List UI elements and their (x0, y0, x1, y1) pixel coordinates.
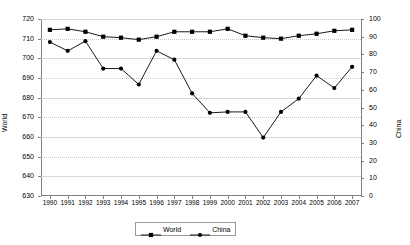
legend-label: China (212, 226, 230, 233)
x-axis-tick-mark (317, 196, 318, 199)
chart-legend: WorldChina (135, 222, 236, 236)
x-axis-tick-mark (281, 196, 282, 199)
x-axis-tick-mark (174, 196, 175, 199)
x-axis-tick-mark (299, 196, 300, 199)
x-axis-tick-mark (245, 196, 246, 199)
data-point-world (332, 29, 336, 33)
data-point-china (119, 66, 123, 70)
x-axis-tick-mark (263, 196, 264, 199)
data-point-world (297, 34, 301, 38)
data-point-world (83, 30, 87, 34)
y-axis-right-tick-mark (361, 161, 364, 162)
data-point-world (350, 28, 354, 32)
data-point-china (314, 74, 318, 78)
y-axis-right-tick-mark (361, 72, 364, 73)
data-point-world (48, 28, 52, 32)
data-point-world (154, 35, 158, 39)
data-point-world (226, 27, 230, 31)
x-axis-tick-mark (157, 196, 158, 199)
y-axis-right-tick-label: 0 (369, 192, 395, 199)
y-axis-title-left: World (1, 72, 8, 132)
y-axis-right-tick-label: 90 (369, 33, 395, 40)
data-point-world (66, 27, 70, 31)
x-axis-tick-mark (85, 196, 86, 199)
data-point-china (297, 97, 301, 101)
data-point-china (243, 110, 247, 114)
data-point-china (261, 135, 265, 139)
y-axis-right-tick-mark (361, 19, 364, 20)
y-axis-right-tick-label: 80 (369, 50, 395, 57)
series-line-china (50, 41, 352, 137)
y-axis-title-right: China (395, 78, 402, 138)
x-axis-tick-mark (139, 196, 140, 199)
data-point-china (332, 86, 336, 90)
data-point-china (137, 82, 141, 86)
data-point-world (190, 30, 194, 34)
y-axis-right-tick-mark (361, 108, 364, 109)
y-axis-right-tick-label: 70 (369, 68, 395, 75)
y-axis-right-tick-mark (361, 54, 364, 55)
line-chart: World China 6306406506606706806907007107… (0, 0, 410, 245)
data-point-world (314, 32, 318, 36)
data-point-world (137, 38, 141, 42)
data-point-china (83, 39, 87, 43)
data-point-world (261, 36, 265, 40)
x-axis-tick-mark (103, 196, 104, 199)
y-axis-right-tick-label: 60 (369, 86, 395, 93)
data-point-china (172, 58, 176, 62)
y-axis-left-tick-label: 640 (8, 172, 34, 179)
y-axis-right-tick-label: 50 (369, 104, 395, 111)
data-point-world (101, 35, 105, 39)
y-axis-left-tick-label: 680 (8, 94, 34, 101)
data-point-world (208, 30, 212, 34)
legend-marker-circle-icon (190, 225, 210, 233)
data-point-world (172, 30, 176, 34)
data-point-china (48, 40, 52, 44)
y-axis-left-tick-label: 690 (8, 74, 34, 81)
y-axis-right-tick-mark (361, 143, 364, 144)
y-axis-right-tick-mark (361, 125, 364, 126)
y-axis-left-tick-label: 670 (8, 113, 34, 120)
x-axis-tick-mark (334, 196, 335, 199)
x-axis-tick-mark (50, 196, 51, 199)
y-axis-left-tick-label: 650 (8, 153, 34, 160)
x-axis-tick-mark (352, 196, 353, 199)
y-axis-right-tick-mark (361, 90, 364, 91)
x-axis-tick-mark (68, 196, 69, 199)
y-axis-right-tick-label: 100 (369, 15, 395, 22)
y-axis-left-tick-label: 710 (8, 35, 34, 42)
data-point-china (154, 49, 158, 53)
y-axis-right-tick-label: 20 (369, 157, 395, 164)
data-point-china (208, 111, 212, 115)
legend-item-world: World (141, 225, 181, 233)
y-axis-left-tick-label: 700 (8, 54, 34, 61)
data-point-world (119, 36, 123, 40)
data-point-china (226, 110, 230, 114)
y-axis-left-tick-label: 630 (8, 192, 34, 199)
data-point-china (279, 110, 283, 114)
x-axis-tick-label: 2007 (340, 199, 364, 206)
y-axis-left-tick-mark (38, 196, 41, 197)
y-axis-left-tick-label: 720 (8, 15, 34, 22)
y-axis-right-tick-label: 10 (369, 174, 395, 181)
legend-label: World (163, 226, 181, 233)
legend-item-china: China (190, 225, 230, 233)
data-point-china (190, 91, 194, 95)
data-point-world (243, 34, 247, 38)
y-axis-right-tick-mark (361, 178, 364, 179)
series-line-world (50, 29, 352, 40)
data-point-world (279, 37, 283, 41)
y-axis-right-tick-mark (361, 196, 364, 197)
data-point-china (66, 49, 70, 53)
y-axis-right-tick-label: 30 (369, 139, 395, 146)
x-axis-tick-mark (121, 196, 122, 199)
x-axis-tick-mark (228, 196, 229, 199)
y-axis-left-tick-label: 660 (8, 133, 34, 140)
x-axis-tick-mark (192, 196, 193, 199)
data-point-china (101, 66, 105, 70)
data-point-china (350, 65, 354, 69)
y-axis-right-tick-label: 40 (369, 121, 395, 128)
legend-marker-square-icon (141, 225, 161, 233)
y-axis-right-tick-mark (361, 37, 364, 38)
series-layer (41, 19, 361, 196)
